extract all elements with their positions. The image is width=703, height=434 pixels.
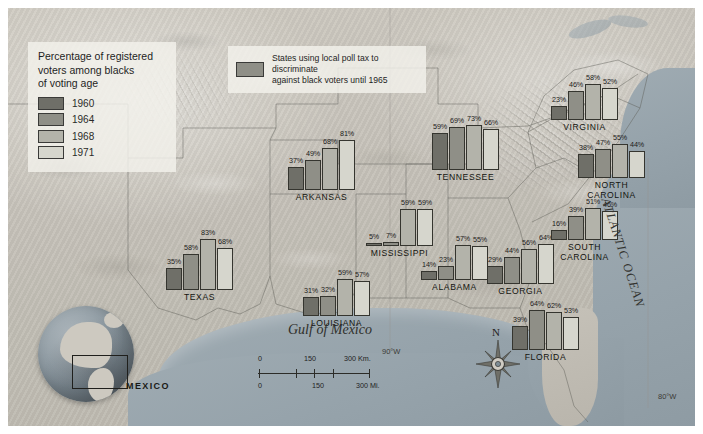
bar-alabama-1964: 23% <box>438 266 454 280</box>
legend-item-1971: 1971 <box>38 146 164 159</box>
bars-arkansas: 37%49%68%81% <box>288 128 355 190</box>
bar-value-label: 59% <box>433 122 447 131</box>
legend-title-line-1: Percentage of registered <box>38 50 164 64</box>
bar-virginia-1968: 58% <box>585 84 601 120</box>
bar-value-label: 83% <box>201 228 215 237</box>
scale-bar-km-labels: 0 150 300 Km. <box>258 355 378 367</box>
bar-rect <box>166 268 182 290</box>
bar-value-label: 68% <box>323 137 337 146</box>
legend-item-1960: 1960 <box>38 97 164 110</box>
bar-virginia-1971: 52% <box>602 88 618 120</box>
bar-value-label: 23% <box>439 255 453 264</box>
bar-value-label: 32% <box>321 285 335 294</box>
bar-rect <box>602 88 618 120</box>
bar-rect <box>305 160 321 190</box>
bar-value-label: 5% <box>369 232 379 241</box>
legend-label-1971: 1971 <box>72 147 94 158</box>
bar-value-label: 59% <box>401 198 415 207</box>
state-label-tennessee: TENNESSEE <box>432 172 499 182</box>
bar-value-label: 59% <box>418 198 432 207</box>
bar-south-carolina-1960: 16% <box>551 230 567 240</box>
bar-south-carolina-1968: 51% <box>585 208 601 240</box>
bar-value-label: 59% <box>338 268 352 277</box>
bar-north-carolina-1968: 55% <box>612 144 628 178</box>
bar-cluster-texas: 35%58%83%68%TEXAS <box>166 228 233 302</box>
bar-cluster-alabama: 14%23%57%55%ALABAMA <box>421 218 488 292</box>
bar-rect <box>200 239 216 290</box>
bar-mississippi-1960: 5% <box>366 243 382 246</box>
label-longitude-90w: 90°W <box>382 347 400 356</box>
bar-rect <box>551 106 567 120</box>
scale-mi-tick-0: 0 <box>258 381 262 390</box>
state-label-south-carolina: SOUTH CAROLINA <box>551 242 618 262</box>
legend-poll-tax-text: States using local poll tax to discrimin… <box>272 53 418 86</box>
bars-georgia: 29%44%56%64% <box>487 222 554 284</box>
bar-louisiana-1964: 32% <box>320 296 336 316</box>
bars-texas: 35%58%83%68% <box>166 228 233 290</box>
bar-rect <box>354 281 370 316</box>
legend-label-1964: 1964 <box>72 114 94 125</box>
bar-rect <box>472 246 488 280</box>
bar-value-label: 68% <box>218 237 232 246</box>
label-longitude-80w: 80°W <box>658 392 676 401</box>
bar-florida-1968: 62% <box>546 312 562 350</box>
legend-swatch-1968 <box>38 130 64 143</box>
label-gulf-of-mexico: Gulf of Mexico <box>288 322 372 338</box>
bar-value-label: 39% <box>569 205 583 214</box>
bar-arkansas-1960: 37% <box>288 167 304 190</box>
bar-value-label: 14% <box>422 260 436 269</box>
bar-texas-1971: 68% <box>217 248 233 290</box>
bar-arkansas-1964: 49% <box>305 160 321 190</box>
legend-title: Percentage of registered voters among bl… <box>38 50 164 91</box>
scale-tick-end <box>369 369 370 378</box>
bar-georgia-1964: 44% <box>504 257 520 284</box>
bar-rect <box>521 249 537 284</box>
bar-rect <box>320 296 336 316</box>
compass-rose: N <box>472 326 524 392</box>
bar-value-label: 64% <box>530 299 544 308</box>
bar-rect <box>585 84 601 120</box>
globe-greenland <box>104 312 124 328</box>
bar-rect <box>529 310 545 350</box>
bar-tennessee-1960: 59% <box>432 133 448 170</box>
bar-value-label: 57% <box>355 270 369 279</box>
bar-rect <box>595 149 611 178</box>
scale-tick-mi-150 <box>296 369 297 378</box>
bar-tennessee-1964: 69% <box>449 127 465 170</box>
legend-title-line-3: of voting age <box>38 77 164 91</box>
bar-rect <box>563 317 579 350</box>
bar-north-carolina-1971: 44% <box>629 151 645 178</box>
bar-value-label: 69% <box>450 116 464 125</box>
bar-alabama-1971: 55% <box>472 246 488 280</box>
legend-swatch-poll-tax <box>236 62 264 77</box>
bar-alabama-1968: 57% <box>455 245 471 280</box>
bar-rect <box>629 151 645 178</box>
bar-north-carolina-1964: 47% <box>595 149 611 178</box>
bars-alabama: 14%23%57%55% <box>421 218 488 280</box>
bar-georgia-1968: 56% <box>521 249 537 284</box>
scale-km-tick-300: 300 Km. <box>344 354 371 363</box>
bar-rect <box>303 297 319 316</box>
bar-rect <box>337 279 353 316</box>
state-label-arkansas: ARKANSAS <box>288 192 355 202</box>
bar-value-label: 56% <box>522 238 536 247</box>
poll-tax-line-1: States using local poll tax to discrimin… <box>272 53 379 74</box>
bar-louisiana-1971: 57% <box>354 281 370 316</box>
bar-value-label: 16% <box>552 219 566 228</box>
legend-label-1960: 1960 <box>72 98 94 109</box>
bar-mississippi-1964: 7% <box>383 242 399 246</box>
state-label-texas: TEXAS <box>166 292 233 302</box>
poll-tax-line-2: against black voters until 1965 <box>272 75 388 85</box>
bar-value-label: 47% <box>596 138 610 147</box>
legend-poll-tax: States using local poll tax to discrimin… <box>228 46 426 93</box>
legend-swatch-1971 <box>38 146 64 159</box>
scale-km-tick-0: 0 <box>258 354 262 363</box>
bar-rect <box>585 208 601 240</box>
bar-value-label: 73% <box>467 114 481 123</box>
bar-rect <box>449 127 465 170</box>
bar-value-label: 49% <box>306 149 320 158</box>
bar-value-label: 66% <box>484 118 498 127</box>
bar-cluster-georgia: 29%44%56%64%GEORGIA <box>487 222 554 296</box>
bar-rect <box>568 216 584 240</box>
bar-value-label: 53% <box>564 306 578 315</box>
